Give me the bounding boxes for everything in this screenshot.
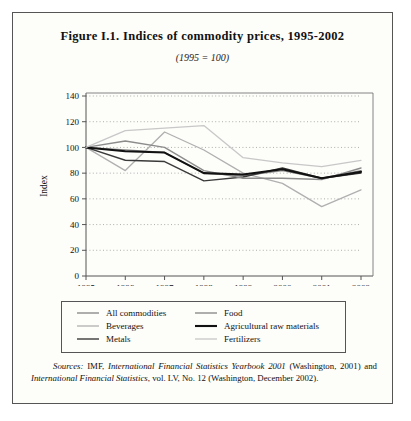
figure-panel: Figure I.1. Indices of commodity prices,… xyxy=(12,12,393,404)
legend-item: Food xyxy=(194,308,345,318)
sources-label: Sources: xyxy=(53,361,83,371)
y-tick-label: 40 xyxy=(70,220,80,230)
chart-plot-area: 0204060801001201401995199619971998199920… xyxy=(13,71,394,286)
y-tick-label: 20 xyxy=(70,245,80,255)
legend-swatch-line xyxy=(194,310,218,316)
x-tick-label: 1999 xyxy=(234,283,253,286)
x-tick-label: 1995 xyxy=(77,283,96,286)
legend-label: Food xyxy=(224,308,243,318)
legend-swatch-line xyxy=(194,323,218,329)
legend-swatch-line xyxy=(76,323,100,329)
sources-text-2: (Washington, 2001) and xyxy=(286,361,377,371)
legend-item: Beverages xyxy=(76,321,194,331)
series-line xyxy=(86,147,361,180)
sources-text-1: IMF, xyxy=(83,361,108,371)
y-tick-label: 140 xyxy=(66,91,80,101)
line-chart: 0204060801001201401995199619971998199920… xyxy=(13,71,394,286)
legend-item: All commodities xyxy=(76,308,194,318)
legend-label: Beverages xyxy=(106,321,143,331)
legend-item: Agricultural raw materials xyxy=(194,321,345,331)
legend-item: Fertilizers xyxy=(194,334,345,344)
sources-italic-1: International Financial Statistics Yearb… xyxy=(108,361,286,371)
legend-label: All commodities xyxy=(106,308,166,318)
y-tick-label: 120 xyxy=(66,117,80,127)
sources-italic-2: International Financial Statistics xyxy=(31,373,148,383)
x-tick-label: 1998 xyxy=(195,283,214,286)
x-tick-label: 1997 xyxy=(156,283,175,286)
y-tick-label: 0 xyxy=(75,271,80,281)
legend-label: Fertilizers xyxy=(224,334,261,344)
series-line xyxy=(86,147,361,178)
x-tick-label: 2002 xyxy=(352,283,370,286)
y-tick-label: 60 xyxy=(70,194,80,204)
legend-label: Metals xyxy=(106,334,131,344)
x-tick-label: 2001 xyxy=(313,283,331,286)
x-tick-label: 2000 xyxy=(273,283,292,286)
y-axis-title: Index xyxy=(39,175,49,197)
y-tick-label: 80 xyxy=(70,168,80,178)
x-tick-label: 1996 xyxy=(116,283,135,286)
sources-text-3: , vol. LV, No. 12 (Washington, December … xyxy=(148,373,319,383)
legend-swatch-line xyxy=(76,336,100,342)
sources-note: Sources: IMF, International Financial St… xyxy=(31,361,377,384)
legend-swatch-line xyxy=(194,336,218,342)
figure-title: Figure I.1. Indices of commodity prices,… xyxy=(13,29,392,44)
legend-swatch-line xyxy=(76,310,100,316)
legend-item: Metals xyxy=(76,334,194,344)
series-line xyxy=(86,132,361,207)
chart-legend: All commoditiesFoodBeveragesAgricultural… xyxy=(61,301,346,353)
legend-label: Agricultural raw materials xyxy=(224,321,319,331)
figure-subtitle: (1995 = 100) xyxy=(13,52,392,63)
y-tick-label: 100 xyxy=(66,143,80,153)
